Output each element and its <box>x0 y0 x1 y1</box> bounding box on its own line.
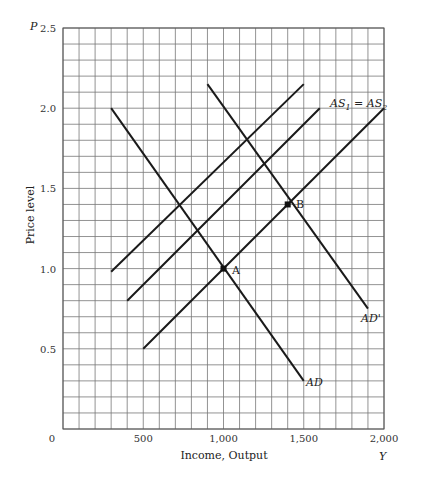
y-tick-label: 2.0 <box>40 103 56 114</box>
curve-as1-as2 <box>143 108 384 349</box>
y-tick-label: 1.0 <box>40 264 56 275</box>
x-axis-title: Income, Output <box>180 449 268 462</box>
x-tick-label: 1,500 <box>289 433 318 444</box>
y-tick-label: 2.5 <box>40 23 56 34</box>
grid <box>63 28 384 429</box>
x-tick-label: 2,000 <box>370 433 399 444</box>
point-a-label: A <box>231 264 241 277</box>
y-axis-symbol: P <box>29 20 38 33</box>
as-label: AS1 = AS2 <box>329 97 387 112</box>
chart: 05001,0001,5002,0002.52.01.51.00.5 P Y I… <box>0 0 424 477</box>
point-b <box>285 201 291 207</box>
y-tick-label: 1.5 <box>40 183 56 194</box>
x-tick-label: 1,000 <box>209 433 238 444</box>
curves <box>111 84 384 381</box>
y-tick-label: 0.5 <box>40 344 56 355</box>
point-a <box>221 266 227 272</box>
x-axis-symbol: Y <box>379 450 388 463</box>
point-b-label: B <box>296 198 304 211</box>
ad-label: AD <box>305 376 323 389</box>
x-tick-label: 500 <box>134 433 153 444</box>
x-tick-label: 0 <box>49 433 55 444</box>
y-axis-title: Price level <box>24 185 37 244</box>
ad-prime-label: AD' <box>360 312 381 325</box>
